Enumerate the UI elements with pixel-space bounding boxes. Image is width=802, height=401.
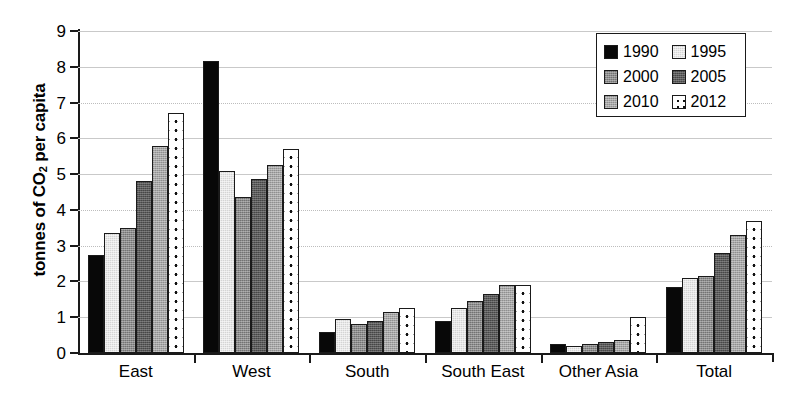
- bar: [550, 344, 566, 353]
- bar: [614, 340, 630, 353]
- x-axis-label: South: [309, 362, 425, 382]
- bar: [598, 342, 614, 353]
- legend-swatch-1995: [672, 45, 686, 59]
- bar: [435, 321, 451, 353]
- legend-label: 2000: [623, 69, 659, 85]
- bar: [483, 294, 499, 353]
- bar: [451, 308, 467, 353]
- bar: [251, 179, 267, 353]
- y-axis-tick: [70, 30, 78, 32]
- bar: [630, 317, 646, 353]
- bar: [499, 285, 515, 353]
- y-axis-tick-label: 5: [44, 165, 66, 185]
- legend-item[interactable]: 2000: [604, 64, 672, 89]
- bar: [666, 287, 682, 353]
- bar: [714, 253, 730, 353]
- x-axis-right-cap: [772, 353, 774, 362]
- bar: [367, 321, 383, 353]
- y-axis-tick-label: 7: [44, 94, 66, 114]
- bar: [682, 278, 698, 353]
- legend: 199019952000200520102012: [596, 33, 746, 117]
- x-axis-label: Total: [656, 362, 772, 382]
- y-axis-tick: [70, 209, 78, 211]
- y-axis-tick: [70, 245, 78, 247]
- bar-cluster: [425, 31, 541, 353]
- legend-swatch-2005: [672, 70, 686, 84]
- y-axis-tick-label: 0: [44, 344, 66, 364]
- x-axis-label: West: [194, 362, 310, 382]
- bar: [319, 332, 335, 353]
- x-axis-label: East: [78, 362, 194, 382]
- y-axis-tick-label: 8: [44, 58, 66, 78]
- y-axis-tick: [70, 102, 78, 104]
- y-axis-tick-label: 4: [44, 201, 66, 221]
- bar: [104, 233, 120, 353]
- bar: [566, 346, 582, 353]
- y-axis-tick: [70, 137, 78, 139]
- y-axis-tick-label: 9: [44, 22, 66, 42]
- legend-item[interactable]: 1995: [672, 39, 740, 64]
- legend-swatch-2000: [604, 70, 618, 84]
- x-axis-separator-tick: [541, 353, 543, 363]
- bar: [351, 324, 367, 353]
- bar-chart: tonnes of CO2 per capita 0123456789 East…: [0, 0, 802, 401]
- bar: [335, 319, 351, 353]
- bar: [399, 308, 415, 353]
- bar: [467, 301, 483, 353]
- y-axis-tick: [70, 316, 78, 318]
- bar: [746, 221, 762, 353]
- bar-cluster: [309, 31, 425, 353]
- bar: [698, 276, 714, 353]
- legend-swatch-1990: [604, 45, 618, 59]
- legend-label: 1990: [623, 44, 659, 60]
- y-axis-tick-label: 6: [44, 129, 66, 149]
- bar: [267, 165, 283, 353]
- bar-cluster: [78, 31, 194, 353]
- x-axis-separator-tick: [309, 353, 311, 363]
- bar: [383, 312, 399, 353]
- legend-label: 2010: [623, 94, 659, 110]
- bar: [203, 61, 219, 353]
- bar: [283, 149, 299, 353]
- legend-item[interactable]: 1990: [604, 39, 672, 64]
- bar: [730, 235, 746, 353]
- legend-swatch-2012: [672, 95, 686, 109]
- bar-cluster: [194, 31, 310, 353]
- x-axis-separator-tick: [656, 353, 658, 363]
- x-axis-separator-tick: [425, 353, 427, 363]
- y-axis-tick: [70, 66, 78, 68]
- bar: [515, 285, 531, 353]
- legend-label: 1995: [691, 44, 727, 60]
- bar: [582, 344, 598, 353]
- x-axis-separator-tick: [194, 353, 196, 363]
- legend-label: 2005: [691, 69, 727, 85]
- legend-item[interactable]: 2005: [672, 64, 740, 89]
- x-axis-label: Other Asia: [541, 362, 657, 382]
- legend-swatch-2010: [604, 95, 618, 109]
- bar: [152, 146, 168, 354]
- bar: [120, 228, 136, 353]
- bar: [88, 255, 104, 353]
- y-axis-tick: [70, 173, 78, 175]
- bar: [219, 171, 235, 353]
- legend-item[interactable]: 2012: [672, 89, 740, 114]
- y-axis-tick: [70, 352, 78, 354]
- y-axis-tick-label: 1: [44, 308, 66, 328]
- y-axis-tick-label: 3: [44, 237, 66, 257]
- legend-item[interactable]: 2010: [604, 89, 672, 114]
- legend-label: 2012: [691, 94, 727, 110]
- bar: [235, 197, 251, 353]
- bar: [136, 181, 152, 353]
- y-axis-title-prefix: tonnes of CO: [30, 172, 49, 276]
- y-axis-tick-label: 2: [44, 272, 66, 292]
- bar: [168, 113, 184, 353]
- y-axis-tick: [70, 280, 78, 282]
- x-axis-label: South East: [425, 362, 541, 382]
